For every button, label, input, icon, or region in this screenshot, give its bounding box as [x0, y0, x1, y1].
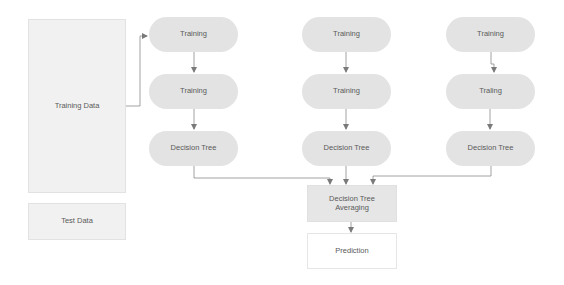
col2-decision-tree-node: Decision Tree	[302, 131, 391, 166]
node-label: Training	[333, 30, 360, 39]
training-data-box: Training Data	[28, 19, 126, 193]
node-label: Training	[180, 30, 207, 39]
test-data-label: Test Data	[61, 217, 93, 226]
col2-training-node-1: Training	[302, 17, 391, 52]
col2-training-node-2: Training	[302, 74, 391, 109]
averaging-label-line2: Averaging	[335, 204, 369, 213]
test-data-box: Test Data	[28, 203, 126, 240]
node-label: Training	[477, 30, 504, 39]
col1-decision-tree-node: Decision Tree	[149, 131, 238, 166]
node-label: Decision Tree	[324, 144, 370, 153]
col3-training-node-2: Traling	[446, 74, 535, 109]
node-label: Traling	[479, 87, 502, 96]
prediction-label: Prediction	[335, 247, 368, 256]
decision-tree-averaging-box: Decision Tree Averaging	[307, 185, 397, 222]
training-data-label: Training Data	[55, 102, 100, 111]
random-forest-diagram: Training Data Test Data Training Trainin…	[0, 0, 564, 285]
node-label: Training	[333, 87, 360, 96]
node-label: Training	[180, 87, 207, 96]
node-label: Decision Tree	[468, 144, 514, 153]
col1-training-node-1: Training	[149, 17, 238, 52]
node-label: Decision Tree	[171, 144, 217, 153]
col3-training-node-1: Training	[446, 17, 535, 52]
col1-training-node-2: Training	[149, 74, 238, 109]
col3-decision-tree-node: Decision Tree	[446, 131, 535, 166]
prediction-box: Prediction	[307, 233, 397, 269]
